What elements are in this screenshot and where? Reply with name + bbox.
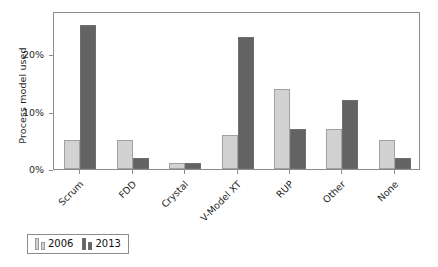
x-tick-mark <box>79 170 80 174</box>
x-tick-label-text: Crystal <box>159 178 190 209</box>
legend-swatch-2006 <box>35 238 45 250</box>
x-tick-label-rup: RUP <box>204 177 297 267</box>
y-axis-title: Process model used <box>17 16 28 176</box>
legend-swatch-short-icon <box>88 242 92 250</box>
bar-crystal-2006 <box>169 163 185 169</box>
legend-swatch-tall-icon <box>82 238 86 250</box>
bar-scrum-2006 <box>64 140 80 169</box>
x-tick-label-v-model-xt: V-Model XT <box>152 177 245 267</box>
bar-v-model-xt-2013 <box>238 37 254 169</box>
bar-rup-2013 <box>290 129 306 169</box>
bar-fdd-2006 <box>117 140 133 169</box>
bar-v-model-xt-2006 <box>222 135 238 169</box>
bar-none-2013 <box>395 158 411 169</box>
x-tick-mark <box>394 170 395 174</box>
x-tick-label-none: None <box>309 177 402 267</box>
bar-none-2006 <box>379 140 395 169</box>
x-tick-mark <box>132 170 133 174</box>
x-tick-label-other: Other <box>256 177 349 267</box>
x-tick-label-text: Other <box>321 178 348 205</box>
legend-entry-2006: 2006 <box>35 238 73 250</box>
x-tick-mark <box>289 170 290 174</box>
chart-legend: 20062013 <box>27 234 129 254</box>
x-tick-label-text: Scrum <box>56 178 85 207</box>
legend-entry-2013: 2013 <box>82 238 120 250</box>
bar-other-2013 <box>342 100 358 169</box>
x-tick-label-text: FDD <box>116 178 138 200</box>
bar-fdd-2013 <box>133 158 149 169</box>
x-tick-mark <box>237 170 238 174</box>
bar-crystal-2013 <box>185 163 201 169</box>
legend-label: 2013 <box>95 239 120 249</box>
y-tick-label: 20% <box>0 49 44 60</box>
legend-label: 2006 <box>48 239 73 249</box>
x-tick-label-text: V-Model XT <box>198 178 243 223</box>
y-tick-label: 10% <box>0 107 44 118</box>
plot-area <box>53 12 420 170</box>
legend-swatch-tall-icon <box>35 238 39 250</box>
x-tick-mark <box>184 170 185 174</box>
x-tick-mark <box>341 170 342 174</box>
y-tick-mark <box>49 170 53 171</box>
bar-scrum-2013 <box>80 25 96 169</box>
bar-other-2006 <box>326 129 342 169</box>
bar-chart-figure: Process model used 0%10%20% ScrumFDDCrys… <box>0 0 438 267</box>
x-tick-label-text: RUP <box>274 178 295 199</box>
bar-rup-2006 <box>274 89 290 169</box>
legend-swatch-2013 <box>82 238 92 250</box>
x-tick-label-text: None <box>375 178 400 203</box>
legend-swatch-short-icon <box>41 242 45 250</box>
y-tick-label: 0% <box>0 164 44 175</box>
